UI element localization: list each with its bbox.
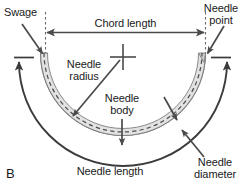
label-needle-diameter-line1: Needle: [184, 156, 246, 168]
label-needle-point-line2: point: [196, 14, 246, 26]
label-needle-diameter-line2: diameter: [184, 168, 246, 180]
label-chord-length: Chord length: [78, 17, 173, 29]
label-needle-point-line1: Needle: [196, 2, 246, 14]
label-needle-radius-line2: radius: [58, 70, 110, 82]
panel-letter: B: [6, 166, 15, 181]
surgical-needle-diagram: Swage Needle point Chord length Needle r…: [0, 0, 248, 190]
needle-diameter-leader-arrow: [182, 130, 204, 157]
needle-point-leader-arrow: [208, 26, 225, 54]
label-swage: Swage: [4, 6, 37, 18]
label-needle-length: Needle length: [64, 165, 156, 177]
label-needle-body-line2: body: [96, 104, 148, 116]
swage-leader-arrow: [22, 24, 43, 54]
label-needle-radius-line1: Needle: [58, 58, 110, 70]
label-needle-body-line1: Needle: [96, 92, 148, 104]
